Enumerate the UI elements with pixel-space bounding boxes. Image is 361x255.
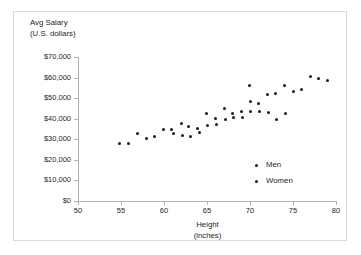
- data-point: [127, 142, 130, 145]
- data-point: [240, 110, 243, 113]
- y-axis-title-line2: (U.S. dollars): [30, 28, 76, 39]
- data-point: [275, 118, 278, 121]
- data-point: [326, 79, 329, 82]
- data-point: [309, 75, 312, 78]
- data-point: [162, 128, 165, 131]
- data-point: [196, 127, 199, 130]
- data-point: [317, 77, 320, 80]
- data-point: [189, 135, 192, 138]
- x-tick-mark: [164, 201, 165, 205]
- data-point: [266, 93, 269, 96]
- data-point: [283, 84, 286, 87]
- data-point: [300, 88, 303, 91]
- x-tick-mark: [207, 201, 208, 205]
- x-tick-label: 60: [149, 206, 179, 215]
- data-point: [232, 116, 235, 119]
- data-point: [118, 142, 121, 145]
- data-point: [224, 118, 227, 121]
- x-tick-label: 75: [278, 206, 308, 215]
- data-point: [214, 117, 217, 120]
- data-point: [170, 128, 173, 131]
- x-tick-mark: [121, 201, 122, 205]
- y-tick-label: $50,000: [16, 94, 71, 102]
- data-point: [145, 137, 148, 140]
- data-point: [198, 131, 201, 134]
- data-point: [215, 123, 218, 126]
- data-point: [257, 102, 260, 105]
- data-point: [241, 116, 244, 119]
- x-tick-mark: [293, 201, 294, 205]
- y-tick-label: $70,000: [16, 53, 71, 61]
- x-tick-label: 70: [235, 206, 265, 215]
- x-tick-mark: [336, 201, 337, 205]
- x-tick-label: 80: [321, 206, 351, 215]
- plot-area: [78, 57, 336, 201]
- data-point: [180, 122, 183, 125]
- data-point: [249, 110, 252, 113]
- x-tick-mark: [250, 201, 251, 205]
- scatter-plot-figure: Avg Salary (U.S. dollars) $0$10,000$20,0…: [0, 0, 361, 255]
- data-point: [274, 92, 277, 95]
- data-point: [249, 100, 252, 103]
- x-tick-label: 65: [192, 206, 222, 215]
- x-axis-title-line2: (inches): [78, 230, 337, 241]
- data-point: [284, 112, 287, 115]
- y-axis-title: Avg Salary (U.S. dollars): [30, 17, 76, 39]
- data-point: [172, 132, 175, 135]
- y-tick-label: $40,000: [16, 115, 71, 123]
- data-point: [231, 112, 234, 115]
- legend-marker-icon: [255, 164, 258, 167]
- y-tick-label: $0: [16, 197, 71, 205]
- y-axis-title-line1: Avg Salary: [30, 17, 76, 28]
- y-tick-label: $30,000: [16, 135, 71, 143]
- x-tick-label: 55: [106, 206, 136, 215]
- data-point: [292, 90, 295, 93]
- data-point: [267, 111, 270, 114]
- data-point: [206, 124, 209, 127]
- data-point: [181, 134, 184, 137]
- data-point: [223, 107, 226, 110]
- data-point: [153, 135, 156, 138]
- legend-marker-icon: [255, 180, 258, 183]
- data-point: [136, 132, 139, 135]
- legend-label: Women: [266, 176, 293, 185]
- y-tick-label: $10,000: [16, 176, 71, 184]
- data-point: [187, 125, 190, 128]
- data-point: [205, 112, 208, 115]
- data-point: [248, 84, 251, 87]
- x-tick-mark: [78, 201, 79, 205]
- legend-label: Men: [266, 160, 281, 169]
- y-tick-label: $60,000: [16, 74, 71, 82]
- x-tick-label: 50: [63, 206, 93, 215]
- data-point: [258, 110, 261, 113]
- y-tick-label: $20,000: [16, 156, 71, 164]
- x-axis-title-line1: Height: [78, 219, 337, 230]
- x-axis-title: Height (inches): [78, 219, 337, 241]
